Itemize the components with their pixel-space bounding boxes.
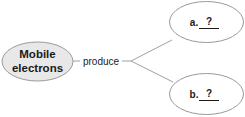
target-node-a: a. ? [170, 2, 244, 43]
target-a-blank: ? [206, 16, 212, 27]
target-a-label: a. [190, 17, 199, 28]
source-node-line2: electrons [12, 62, 63, 74]
target-b-blank: ? [206, 88, 212, 99]
target-node-b: b. ? [170, 74, 244, 115]
concept-map: Mobile electrons produce a. ? b. ? [0, 0, 245, 117]
branch-line-a [131, 40, 172, 61]
branch-line-b [131, 61, 173, 82]
target-b-label: b. [190, 89, 199, 100]
link-label-produce: produce [83, 56, 120, 67]
source-node-line1: Mobile [19, 48, 55, 60]
source-node-mobile-electrons: Mobile electrons [2, 42, 73, 81]
